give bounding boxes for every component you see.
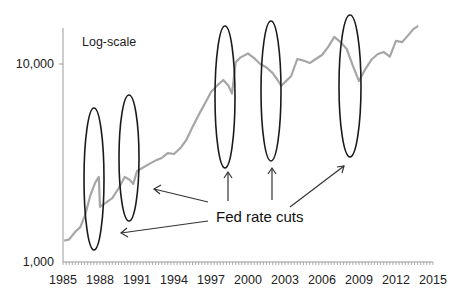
arrow-2009	[290, 166, 344, 207]
y-tick-1000: 1,000	[23, 255, 54, 269]
x-tick-2000: 2000	[234, 273, 262, 287]
x-tick-2012: 2012	[382, 273, 410, 287]
x-tick-1985: 1985	[49, 273, 77, 287]
chart: Log-scale 10,000 1,000 1985 1988 1991 19…	[0, 0, 453, 296]
x-tick-1997: 1997	[197, 273, 225, 287]
x-tick-2003: 2003	[271, 273, 299, 287]
ellipse-1987	[84, 108, 104, 250]
ellipse-1998	[215, 26, 235, 168]
y-tick-10000: 10,000	[16, 57, 54, 71]
ellipse-2009	[339, 15, 361, 157]
x-tick-1994: 1994	[160, 273, 188, 287]
annotation-arrows	[121, 166, 344, 237]
y-axis: 10,000 1,000	[16, 28, 63, 269]
x-axis: 1985 1988 1991 1994 1997 2000 2003 2006 …	[49, 262, 447, 287]
arrow-1987	[121, 221, 208, 233]
fed-rate-cuts-label: Fed rate cuts	[216, 208, 304, 225]
x-tick-2009: 2009	[345, 273, 373, 287]
x-tick-2006: 2006	[308, 273, 336, 287]
arrow-1990	[154, 189, 208, 202]
x-tick-2015: 2015	[419, 273, 447, 287]
ellipse-1990	[119, 95, 139, 221]
scale-note: Log-scale	[82, 35, 136, 49]
x-tick-1988: 1988	[86, 273, 114, 287]
x-tick-1991: 1991	[123, 273, 151, 287]
ellipse-2002	[261, 21, 281, 161]
